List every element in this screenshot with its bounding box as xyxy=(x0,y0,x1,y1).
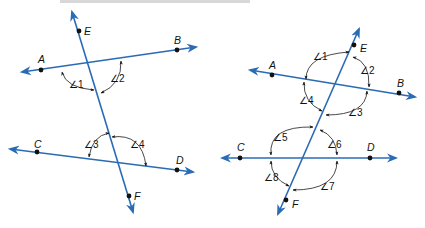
point-e xyxy=(352,43,357,48)
point-a xyxy=(39,68,44,73)
label-a: A xyxy=(268,59,276,71)
right-figure: E F A B C D ∠1 ∠2 ∠3 ∠4 ∠5 ∠6 ∠7 ∠8 xyxy=(222,29,415,214)
point-c xyxy=(35,150,40,155)
line-ab xyxy=(22,47,196,72)
label-b: B xyxy=(397,77,404,89)
angle-7-label: ∠7 xyxy=(320,181,335,192)
angle-6-label: ∠6 xyxy=(327,139,342,150)
angle-2-label: ∠2 xyxy=(110,73,125,84)
angle-3-label: ∠3 xyxy=(84,139,99,150)
transversal-ef xyxy=(72,12,133,212)
angle-5-label: ∠5 xyxy=(273,132,288,143)
angle-2-label: ∠2 xyxy=(360,65,375,76)
point-a xyxy=(270,73,275,78)
label-c: C xyxy=(34,138,42,150)
line-ab xyxy=(250,70,415,97)
angle-8-label: ∠8 xyxy=(264,172,279,183)
label-e: E xyxy=(360,42,368,54)
cropped-header-text xyxy=(60,0,250,3)
point-d xyxy=(175,168,180,173)
label-c: C xyxy=(237,141,245,153)
point-c xyxy=(238,156,243,161)
label-d: D xyxy=(176,154,184,166)
point-f xyxy=(127,194,132,199)
angle-4-label: ∠4 xyxy=(130,139,145,150)
angle-1-label: ∠1 xyxy=(313,51,328,62)
label-e: E xyxy=(84,25,92,37)
label-f: F xyxy=(134,190,141,202)
diagram-canvas: E F A B C D ∠1 ∠2 ∠3 ∠4 E F A B C D xyxy=(0,0,425,228)
point-b xyxy=(175,48,180,53)
label-d: D xyxy=(367,141,375,153)
point-b xyxy=(397,91,402,96)
label-b: B xyxy=(174,34,181,46)
angle-1-label: ∠1 xyxy=(69,79,84,90)
point-f xyxy=(284,198,289,203)
label-f: F xyxy=(292,198,299,210)
point-d xyxy=(368,156,373,161)
angle-3-label: ∠3 xyxy=(348,107,363,118)
angle-4-label: ∠4 xyxy=(299,95,314,106)
left-figure: E F A B C D ∠1 ∠2 ∠3 ∠4 xyxy=(10,12,196,212)
point-e xyxy=(77,29,82,34)
label-a: A xyxy=(37,53,45,65)
